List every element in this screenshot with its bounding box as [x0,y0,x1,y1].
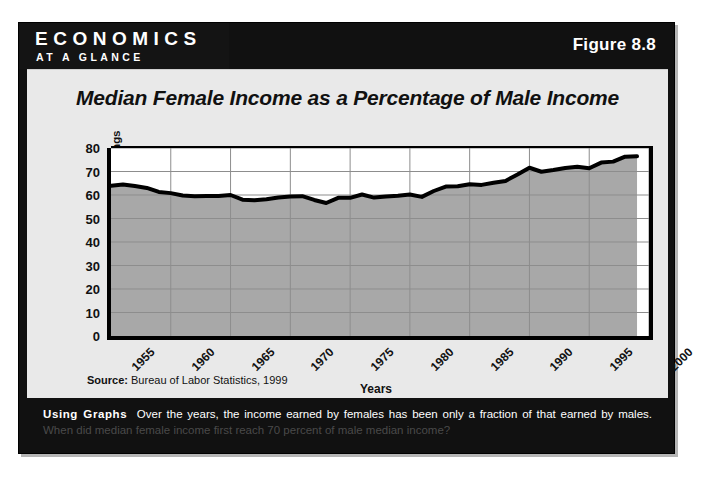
figure-page: ECONOMICS AT A GLANCE Figure 8.8 Median … [0,0,701,482]
x-tick-label: 2000 [667,345,696,374]
plot-canvas [107,148,649,340]
figure-caption: Using Graphs Over the years, the income … [27,401,668,449]
x-tick-label: 1960 [189,345,218,374]
chart-title: Median Female Income as a Percentage of … [27,86,668,110]
chart-svg [111,148,649,336]
x-tick-label: 1985 [487,345,516,374]
economics-at-a-glance-banner: ECONOMICS AT A GLANCE [19,23,229,69]
y-tick-label: 20 [86,282,100,297]
figure-frame: ECONOMICS AT A GLANCE Figure 8.8 Median … [18,22,675,454]
banner-title: ECONOMICS [35,28,202,50]
plot-top-border [111,146,653,148]
source-label: Source: [87,374,128,386]
figure-number-label: Figure 8.8 [573,35,656,55]
y-tick-label: 70 [86,164,100,179]
y-tick-label: 60 [86,188,100,203]
source-note: Source: Bureau of Labor Statistics, 1999 [87,374,288,386]
series-area-fill [111,156,637,336]
x-tick-label: 1970 [308,345,337,374]
y-tick-label: 30 [86,258,100,273]
chart-panel: Median Female Income as a Percentage of … [27,69,668,398]
x-tick-label: 1990 [547,345,576,374]
plot-area: Female/Male Earnings Ratio 0102030405060… [107,148,645,336]
y-tick-label: 50 [86,211,100,226]
y-tick-label: 80 [86,141,100,156]
x-tick-label: 1955 [129,345,158,374]
caption-question: When did median female income first reac… [43,424,450,436]
plot-right-border [649,148,653,340]
x-tick-label: 1975 [368,345,397,374]
x-tick-label: 1965 [248,345,277,374]
caption-body: Over the years, the income earned by fem… [137,408,652,420]
y-tick-label: 40 [86,235,100,250]
source-text: Bureau of Labor Statistics, 1999 [128,374,288,386]
caption-lead: Using Graphs [43,408,127,420]
x-tick-label: 1980 [428,345,457,374]
banner-subtitle: AT A GLANCE [36,51,144,63]
x-tick-label: 1995 [607,345,636,374]
y-tick-label: 10 [86,305,100,320]
y-tick-label: 0 [93,329,100,344]
